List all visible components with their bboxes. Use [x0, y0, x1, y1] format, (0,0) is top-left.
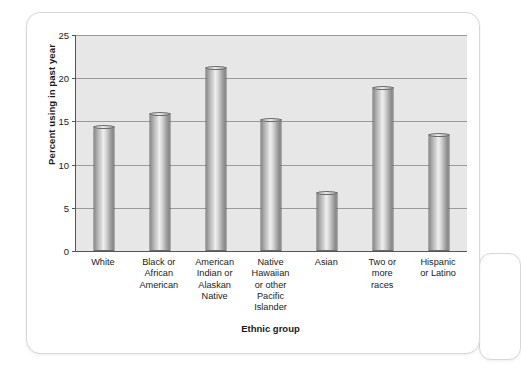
y-axis-title: Percent using in past year — [46, 25, 57, 185]
x-axis-category-label-line: Black or — [130, 257, 188, 268]
x-axis-category-label-line: races — [353, 280, 411, 291]
x-axis-category-label-line: White — [74, 257, 132, 268]
x-axis-category-label-line: Native — [186, 291, 244, 302]
bar-top-cap — [205, 66, 226, 70]
bar-top-cap — [373, 86, 394, 90]
x-axis-category-label-line: American — [186, 257, 244, 268]
x-axis-category-label-line: more — [353, 268, 411, 279]
bar-slot — [411, 35, 467, 251]
bar[interactable] — [373, 87, 394, 251]
x-axis-category-label-line: Two or — [353, 257, 411, 268]
x-axis-category-label: Two ormoreraces — [353, 257, 411, 291]
bar-slot — [355, 35, 411, 251]
bar-slot — [188, 35, 244, 251]
plot-area: 0510152025 — [75, 35, 467, 252]
bar[interactable] — [317, 192, 338, 251]
x-axis-category-label-line: Hawaiian — [242, 268, 300, 279]
x-axis-category-label: NativeHawaiianor otherPacificIslander — [242, 257, 300, 313]
bar-slot — [132, 35, 188, 251]
x-axis-category-label-line: Islander — [242, 302, 300, 313]
bar-top-cap — [149, 112, 170, 116]
x-axis-category-label-line: American — [130, 280, 188, 291]
y-axis-tick-label: 0 — [64, 246, 69, 257]
bar-slot — [299, 35, 355, 251]
bar-slot — [244, 35, 300, 251]
bar-top-cap — [429, 133, 450, 137]
x-axis-category-label: Asian — [297, 257, 355, 268]
x-axis-title: Ethnic group — [75, 323, 466, 334]
x-axis-category-label-line: Asian — [297, 257, 355, 268]
x-axis-category-label-line: Alaskan — [186, 280, 244, 291]
x-axis-category-label-line: or other — [242, 280, 300, 291]
bar[interactable] — [205, 67, 226, 251]
x-axis-category-label-line: or Latino — [409, 268, 467, 279]
x-axis-category-label-line: Native — [242, 257, 300, 268]
y-axis-tick-mark — [72, 251, 76, 252]
x-axis-category-label-line: Hispanic — [409, 257, 467, 268]
x-axis-category-label: AmericanIndian orAlaskanNative — [186, 257, 244, 302]
y-axis-tick-label: 15 — [58, 116, 69, 127]
bar[interactable] — [149, 113, 170, 251]
bar-top-cap — [261, 118, 282, 122]
y-axis-tick-label: 20 — [58, 73, 69, 84]
figure-card: Percent using in past year 0510152025 Et… — [26, 12, 480, 354]
x-axis-category-label: Black orAfricanAmerican — [130, 257, 188, 291]
bar[interactable] — [261, 119, 282, 251]
adjacent-card-edge — [479, 253, 521, 360]
x-axis-category-label-line: Indian or — [186, 268, 244, 279]
bar-slot — [76, 35, 132, 251]
bar[interactable] — [93, 126, 114, 251]
y-axis-tick-label: 10 — [58, 159, 69, 170]
x-axis-category-label-line: Pacific — [242, 291, 300, 302]
bar-top-cap — [93, 125, 114, 129]
x-axis-category-label: White — [74, 257, 132, 268]
y-axis-tick-label: 25 — [58, 30, 69, 41]
x-axis-category-label: Hispanicor Latino — [409, 257, 467, 280]
bar-top-cap — [317, 191, 338, 195]
bar-chart-figure: Percent using in past year 0510152025 Et… — [27, 13, 479, 353]
bar[interactable] — [429, 134, 450, 251]
x-axis-category-label-line: African — [130, 268, 188, 279]
y-axis-tick-label: 5 — [64, 202, 69, 213]
